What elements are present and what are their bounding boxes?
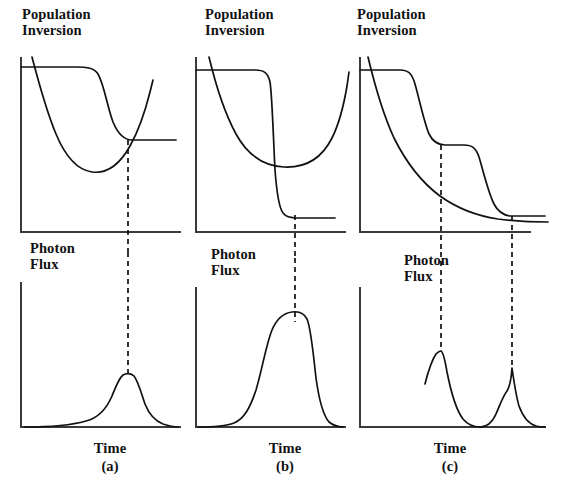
panel-c-photon-flux-pulse-1 [425,351,480,427]
panel-a-population-inversion-curve [21,67,176,140]
panel-a-photon-flux-curve [25,374,178,427]
panel-a-upper-axes [21,58,180,232]
panel-b-lower-axes [196,288,345,427]
panel-a-lower-axes [21,283,180,427]
panel-c-photon-flux-pulse-2 [480,368,545,427]
panel-b-upper-plot [196,57,349,258]
panel-b-lower-plot [196,258,345,427]
panel-c-population-inversion-curve [360,70,545,216]
figure-qswitch-dynamics: PopulationInversion PhotonFlux Time (a) … [0,0,575,498]
panel-b-threshold-curve [209,57,349,167]
panel-b-photon-flux-curve [198,312,343,427]
panel-c-upper-plot [360,57,548,252]
panel-a-upper-plot [21,57,180,252]
panel-c-threshold-curve [368,57,548,222]
panel-c-lower-plot [360,252,545,427]
panel-a-lower-plot [21,252,180,427]
panel-b-population-inversion-curve [196,70,335,218]
figure-canvas [0,0,575,498]
panel-a-threshold-curve [32,57,153,172]
panel-c-lower-axes [360,288,545,427]
